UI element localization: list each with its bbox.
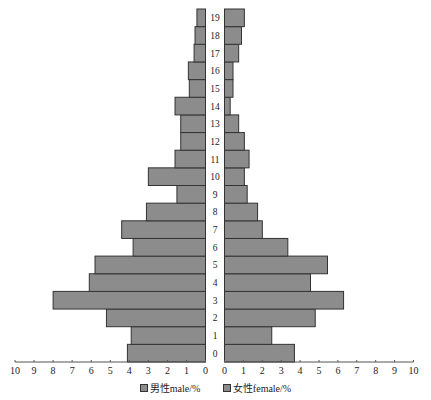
female-bar: [225, 238, 288, 256]
female-bar: [225, 62, 234, 80]
x-tick-label: 3: [279, 365, 284, 376]
male-bar: [148, 168, 205, 186]
legend-female-label: 女性female/%: [233, 380, 291, 395]
age-labels: 012345678910111213141516171819: [210, 13, 220, 358]
male-bar: [181, 133, 206, 151]
legend-item-female: 女性female/%: [223, 380, 291, 395]
age-label: 5: [213, 260, 218, 270]
age-label: 13: [210, 119, 220, 129]
male-bar: [106, 309, 205, 327]
x-tick-label: 9: [32, 365, 37, 376]
x-tick-label: 0: [203, 365, 208, 376]
age-label: 17: [210, 49, 220, 59]
male-bar: [175, 150, 205, 168]
x-tick-label: 1: [184, 365, 189, 376]
x-tick-label: 5: [317, 365, 322, 376]
age-label: 2: [213, 313, 218, 323]
x-tick-label: 4: [298, 365, 303, 376]
x-tick-label: 8: [51, 365, 56, 376]
right-x-axis: 012345678910: [222, 360, 419, 376]
legend-item-male: 男性male/%: [140, 380, 201, 395]
male-swatch-icon: [140, 384, 148, 392]
age-label: 12: [210, 137, 220, 147]
x-tick-label: 5: [108, 365, 113, 376]
age-label: 8: [213, 207, 218, 217]
female-bar: [225, 344, 295, 362]
female-bar: [225, 327, 272, 345]
male-bar: [188, 62, 205, 80]
x-tick-label: 7: [354, 365, 359, 376]
female-bar: [225, 309, 316, 327]
female-bar: [225, 168, 245, 186]
x-tick-label: 3: [146, 365, 151, 376]
female-bar: [225, 9, 245, 27]
age-label: 19: [210, 13, 220, 23]
female-bar: [225, 150, 250, 168]
male-bar: [133, 238, 205, 256]
age-label: 6: [213, 243, 218, 253]
male-bar: [95, 256, 205, 274]
legend-male-label: 男性male/%: [150, 380, 201, 395]
x-tick-label: 0: [222, 365, 227, 376]
female-bar: [225, 221, 263, 239]
age-label: 4: [213, 278, 218, 288]
male-bar: [146, 203, 205, 221]
age-label: 1: [213, 331, 218, 341]
left-x-axis: 109876543210: [10, 360, 208, 376]
female-bar: [225, 44, 239, 62]
age-label: 16: [210, 66, 220, 76]
x-tick-label: 1: [241, 365, 246, 376]
female-bars: [225, 9, 344, 362]
x-tick-label: 8: [373, 365, 378, 376]
male-bar: [194, 44, 205, 62]
age-label: 18: [210, 31, 220, 41]
male-bar: [53, 291, 205, 309]
age-label: 7: [213, 225, 218, 235]
female-bar: [225, 291, 344, 309]
female-bar: [225, 256, 328, 274]
male-bar: [195, 27, 205, 45]
female-swatch-icon: [223, 384, 231, 392]
male-bar: [127, 344, 205, 362]
female-bar: [225, 274, 311, 292]
male-bar: [122, 221, 206, 239]
age-label: 10: [210, 172, 220, 182]
male-bar: [177, 186, 206, 204]
female-bar: [225, 186, 248, 204]
x-tick-label: 10: [409, 365, 419, 376]
female-bar: [225, 80, 234, 98]
male-bar: [175, 97, 205, 115]
x-tick-label: 6: [89, 365, 94, 376]
male-bar: [89, 274, 205, 292]
male-bar: [189, 80, 205, 98]
male-bars: [53, 9, 205, 362]
age-label: 0: [213, 349, 218, 359]
age-label: 15: [210, 84, 220, 94]
x-tick-label: 2: [260, 365, 265, 376]
age-label: 14: [210, 102, 220, 112]
x-tick-label: 9: [392, 365, 397, 376]
x-tick-label: 6: [335, 365, 340, 376]
female-bar: [225, 133, 245, 151]
female-bar: [225, 203, 258, 221]
age-label: 11: [210, 155, 219, 165]
x-tick-label: 4: [127, 365, 132, 376]
age-label: 3: [213, 296, 218, 306]
male-bar: [197, 9, 206, 27]
legend: 男性male/% 女性female/%: [0, 380, 431, 395]
population-pyramid-chart: 012345678910111213141516171819 109876543…: [0, 0, 431, 400]
male-bar: [181, 115, 206, 133]
female-bar: [225, 115, 239, 133]
female-bar: [225, 97, 231, 115]
female-bar: [225, 27, 242, 45]
x-tick-label: 2: [165, 365, 170, 376]
male-bar: [131, 327, 205, 345]
x-tick-label: 7: [70, 365, 75, 376]
x-tick-label: 10: [10, 365, 20, 376]
age-label: 9: [213, 190, 218, 200]
